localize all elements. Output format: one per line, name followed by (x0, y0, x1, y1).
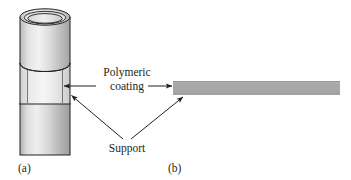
callout-support-label: Support (109, 142, 146, 155)
panel-b-flat-sheet (173, 81, 340, 95)
panel-label-a: (a) (18, 162, 31, 175)
tube-open-rim (20, 9, 70, 25)
figure-svg: Polymeric coating Support (a) (b) (0, 0, 351, 180)
leader-support-to-tube (72, 96, 124, 140)
callout-polymeric-coating-line1: Polymeric (103, 66, 150, 79)
figure-container: Polymeric coating Support (a) (b) (0, 0, 351, 180)
callout-polymeric-coating: Polymeric coating (103, 66, 150, 93)
tube-lower-support-section (20, 103, 70, 155)
panel-a-tubular-support (20, 9, 70, 155)
leader-lines-group (64, 86, 183, 139)
flat-sheet-coating-bar (173, 81, 340, 95)
panel-label-b: (b) (168, 162, 182, 175)
callout-polymeric-coating-line2: coating (110, 80, 144, 93)
leader-support-to-sheet (131, 97, 183, 139)
